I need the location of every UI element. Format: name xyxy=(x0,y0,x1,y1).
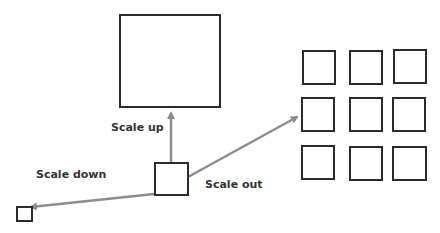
grid-box xyxy=(393,147,426,180)
scale-down-arrow xyxy=(31,194,154,207)
scaled-up-box xyxy=(120,15,220,107)
scale-up-label: Scale up xyxy=(111,121,164,134)
scaled-out-grid xyxy=(302,50,426,180)
grid-box xyxy=(302,98,334,131)
grid-box xyxy=(302,146,334,179)
scale-out-arrow xyxy=(188,117,297,177)
grid-box xyxy=(393,98,425,131)
grid-box xyxy=(350,51,382,84)
grid-box xyxy=(350,147,382,180)
scaled-down-box xyxy=(17,207,32,221)
grid-box xyxy=(394,50,426,83)
original-box xyxy=(155,163,188,195)
grid-box xyxy=(350,98,382,131)
scale-down-label: Scale down xyxy=(36,168,106,181)
grid-box xyxy=(303,51,335,84)
scale-out-label: Scale out xyxy=(205,178,263,191)
scaling-diagram xyxy=(0,0,440,233)
